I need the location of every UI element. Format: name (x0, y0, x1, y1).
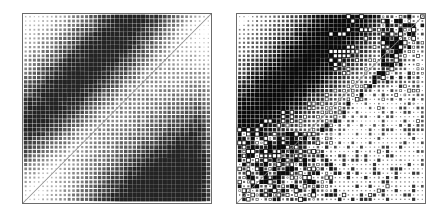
right-matrix-panel (236, 13, 426, 204)
right-matrix-canvas (236, 13, 426, 204)
figure-root (0, 0, 441, 217)
left-matrix-panel (22, 13, 212, 204)
left-matrix-canvas (22, 13, 212, 204)
